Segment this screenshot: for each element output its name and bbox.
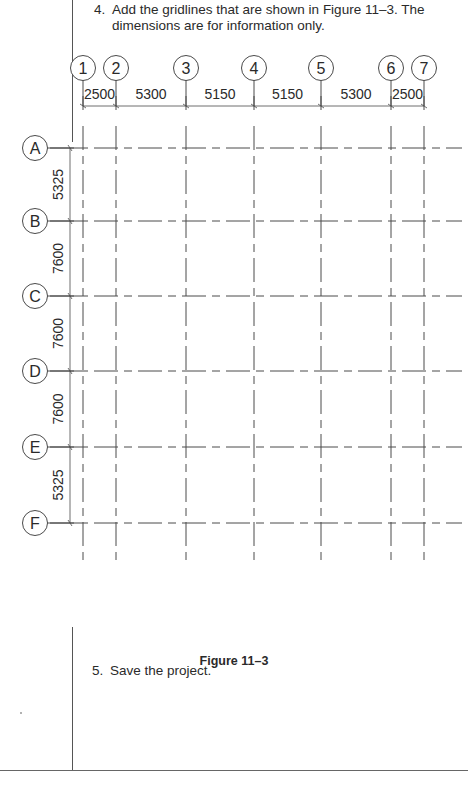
gridline-figure: 1234567ABCDEF 25005300515051505300250053… [0, 0, 468, 660]
step-5-number: 5. [92, 663, 103, 679]
column-grid-bubble-4: 4 [242, 56, 267, 107]
svg-text:5: 5 [317, 60, 326, 77]
column-dimension-value: 2500 [84, 86, 115, 102]
svg-text:1: 1 [79, 60, 88, 77]
svg-text:4: 4 [250, 60, 259, 77]
svg-text:2: 2 [112, 60, 121, 77]
column-grid-bubble-5: 5 [309, 56, 334, 107]
row-grid-bubble-A: A [23, 136, 81, 161]
svg-text:6: 6 [387, 60, 396, 77]
page-bottom-rule [0, 770, 468, 771]
svg-text:B: B [30, 213, 41, 230]
svg-text:3: 3 [182, 60, 191, 77]
column-dimension-value: 5300 [340, 86, 371, 102]
row-dimension-value: 5325 [50, 169, 66, 200]
row-dimension-value: 5325 [50, 469, 66, 500]
svg-text:D: D [29, 363, 41, 380]
row-grid-bubble-D: D [23, 359, 81, 384]
svg-text:7: 7 [420, 60, 429, 77]
row-dimension-value: 7600 [50, 318, 66, 349]
step-5-text: Save the project. [110, 663, 211, 679]
row-grid-bubble-E: E [23, 435, 81, 460]
svg-text:F: F [30, 515, 40, 532]
svg-text:C: C [29, 288, 41, 305]
step-5: 5. Save the project. [92, 663, 392, 681]
column-dimension-value: 5300 [135, 86, 166, 102]
row-grid-bubble-C: C [23, 284, 81, 309]
column-grid-bubble-3: 3 [174, 56, 199, 107]
scan-artifact-dot [20, 712, 22, 714]
column-dimension-value: 5150 [272, 86, 303, 102]
row-grid-bubble-B: B [23, 209, 81, 234]
column-dimension-value: 2500 [392, 86, 423, 102]
row-grid-bubble-F: F [23, 511, 81, 536]
svg-text:A: A [30, 140, 41, 157]
svg-text:E: E [30, 439, 41, 456]
column-dimension-value: 5150 [204, 86, 235, 102]
row-dimension-value: 7600 [50, 243, 66, 274]
row-dimension-value: 7600 [50, 393, 66, 424]
